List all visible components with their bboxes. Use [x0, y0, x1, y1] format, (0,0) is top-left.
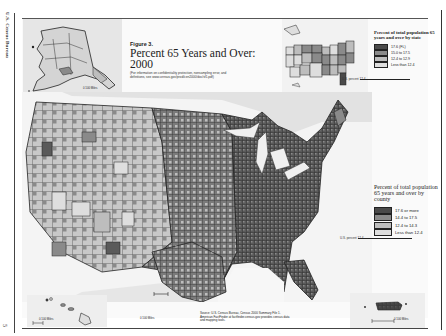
- county-legend: Percent of total population 65 years and…: [374, 184, 440, 237]
- legend-label: 12.4 to 12.9: [391, 57, 410, 61]
- bottom-rule: [22, 328, 428, 329]
- county-us-percent-pointer: [358, 238, 412, 239]
- us-states-map-icon: [282, 19, 368, 94]
- legend-swatch: [374, 44, 388, 50]
- county-legend-row: 12.4 to 14.3: [374, 222, 440, 230]
- legend-swatch: [374, 62, 388, 68]
- legend-swatch: [374, 222, 392, 229]
- legend-swatch: [374, 229, 392, 236]
- legend-swatch: [374, 56, 388, 62]
- legend-swatch: [374, 214, 392, 221]
- legend-label: 12.4 to 14.3: [395, 223, 417, 228]
- alaska-map-icon: 0 100 Miles: [23, 19, 122, 94]
- legend-label: 15.0 to 17.5: [391, 51, 410, 55]
- legend-label: 17.6 or more: [395, 208, 419, 213]
- source-note: Source: U.S. Census Bureau, Census 2000 …: [200, 312, 292, 323]
- puerto-rico-map-icon: [350, 293, 425, 328]
- puerto-rico-inset: 0 100 Miles: [350, 293, 425, 328]
- hawaii-map-icon: [27, 295, 107, 327]
- hawaii-scale: 0 100 Miles: [39, 317, 53, 321]
- puerto-rico-scale: 0 100 Miles: [394, 317, 408, 321]
- right-margin-rule: [441, 10, 442, 330]
- county-legend-row: 14.4 to 17.5: [374, 214, 440, 222]
- alaska-inset: 0 100 Miles: [23, 19, 122, 94]
- state-legend: Percent of total population 65 years and…: [374, 30, 440, 68]
- mainland-scale: 0 100 Miles: [140, 316, 154, 320]
- state-us-percent-pointer: [360, 79, 410, 80]
- legend-label: 17.6 (FL): [391, 45, 406, 49]
- county-level-map: [22, 92, 372, 302]
- state-legend-row: Less than 12.4: [374, 62, 440, 68]
- page-number: 5: [2, 324, 8, 327]
- legend-swatch: [374, 207, 392, 214]
- legend-label: Less than 12.4: [391, 63, 415, 67]
- us-counties-map-icon: [22, 92, 372, 302]
- legend-swatch: [374, 50, 388, 56]
- state-level-inset-map: [282, 19, 368, 94]
- left-margin-rule: [14, 13, 15, 333]
- state-legend-title: Percent of total population 65 years and…: [374, 30, 440, 40]
- alaska-scale: 0 100 Miles: [83, 86, 98, 90]
- county-legend-row: Less than 12.4: [374, 229, 440, 237]
- hawaii-inset: 0 100 Miles: [27, 295, 107, 327]
- publisher-side-label: U.S. Census Bureau: [1, 12, 10, 72]
- title-block: Figure 3. Percent 65 Years and Over: 200…: [122, 19, 282, 94]
- county-legend-title: Percent of total population 65 years and…: [374, 184, 440, 203]
- legend-label: 14.4 to 17.5: [395, 215, 417, 220]
- legend-label: Less than 12.4: [395, 230, 422, 235]
- figure-title: Percent 65 Years and Over: 2000: [130, 48, 280, 70]
- figure-note: (For information on confidentiality prot…: [130, 71, 240, 79]
- county-legend-row: 17.6 or more: [374, 207, 440, 215]
